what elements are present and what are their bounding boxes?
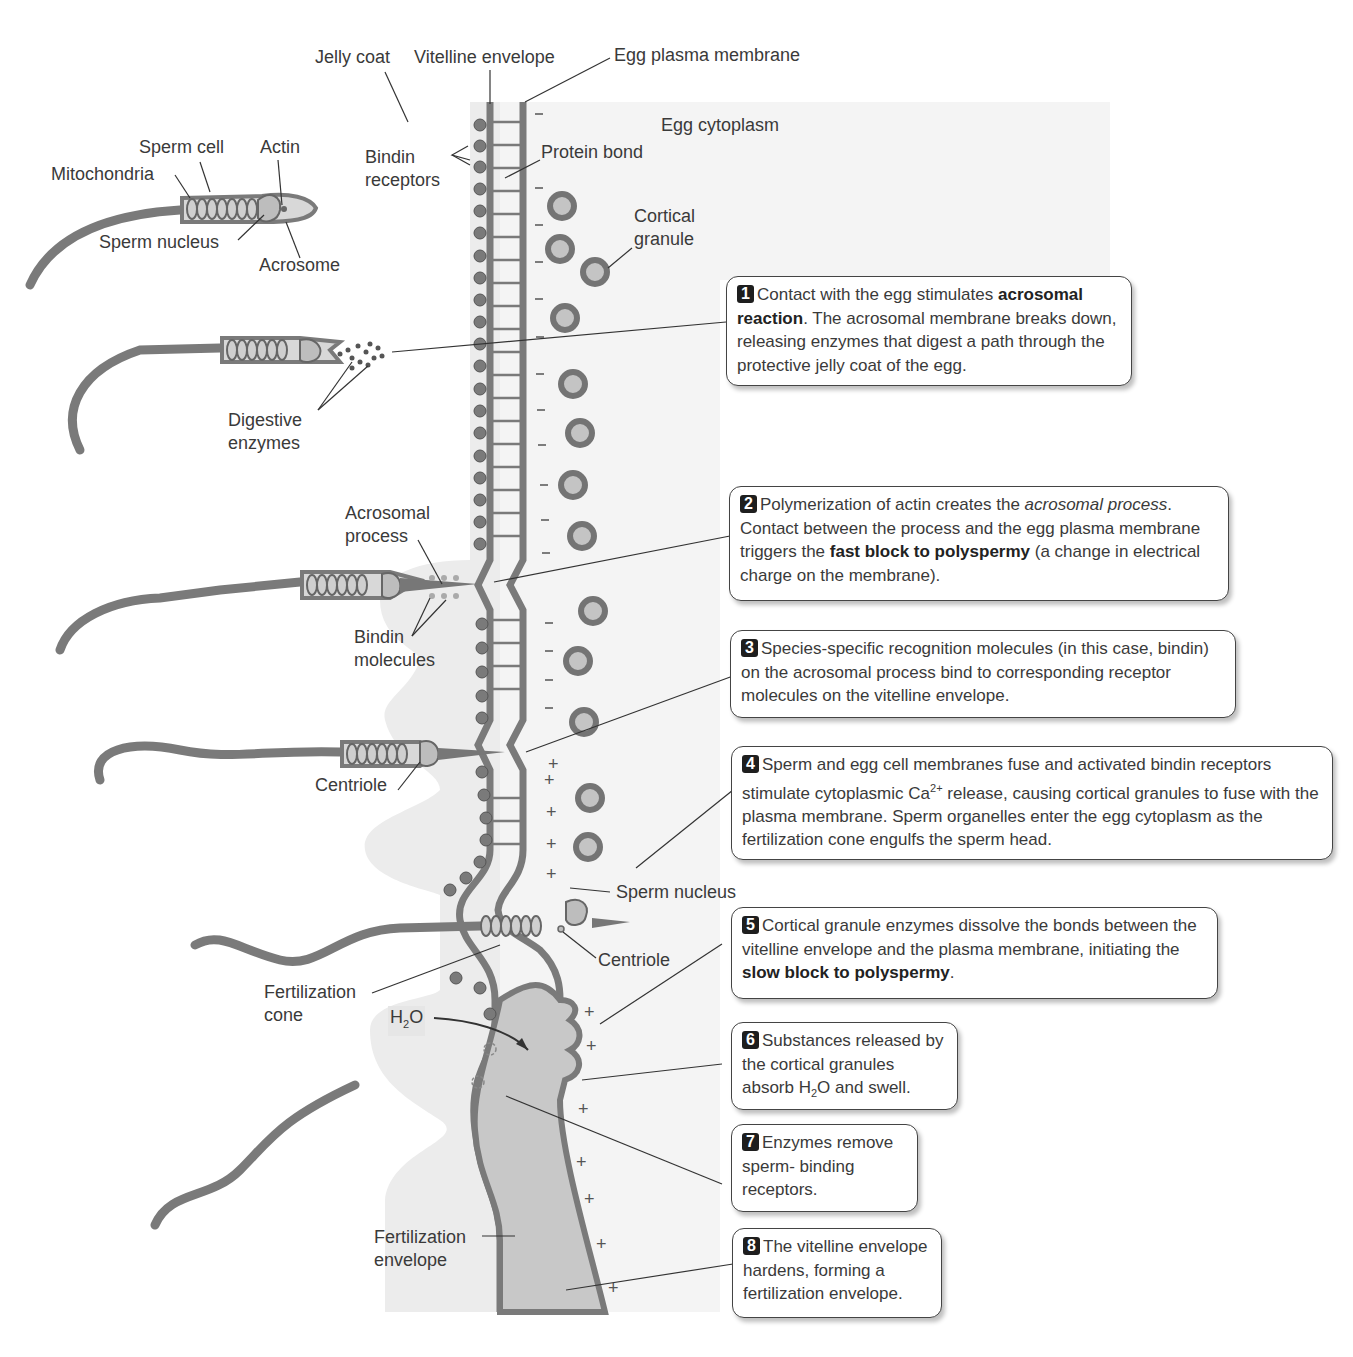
step-badge: 1 xyxy=(737,285,754,303)
step-callout-8: 8The vitelline envelope hardens, forming… xyxy=(732,1228,942,1318)
label-digestive-enzymes: Digestiveenzymes xyxy=(228,409,302,455)
step-callout-6: 6Substances released by the cortical gra… xyxy=(731,1022,958,1110)
label-bindin-molecules: Bindinmolecules xyxy=(354,626,435,672)
step-badge: 3 xyxy=(741,639,758,657)
svg-text:+: + xyxy=(548,754,559,774)
label-bindin-receptors: Bindinreceptors xyxy=(365,146,440,192)
label-jelly-coat: Jelly coat xyxy=(315,46,390,69)
step-callout-1: 1Contact with the egg stimulates acrosom… xyxy=(726,276,1132,386)
label-acrosomal-process: Acrosomalprocess xyxy=(345,502,430,548)
label-sperm-nucleus-bottom: Sperm nucleus xyxy=(616,881,736,904)
step-callout-3: 3Species-specific recognition molecules … xyxy=(730,630,1236,718)
step-badge: 7 xyxy=(742,1133,759,1151)
svg-text:+: + xyxy=(546,834,557,854)
svg-text:+: + xyxy=(586,1036,597,1056)
label-cortical-granule: Corticalgranule xyxy=(634,205,695,251)
label-h2o: H2O xyxy=(388,1006,425,1036)
label-centriole-right: Centriole xyxy=(598,949,670,972)
svg-text:+: + xyxy=(576,1152,587,1172)
step-badge: 6 xyxy=(742,1031,759,1049)
svg-text:+: + xyxy=(546,864,557,884)
svg-text:+: + xyxy=(608,1278,619,1298)
actin xyxy=(281,206,287,212)
label-mitochondria: Mitochondria xyxy=(51,163,154,186)
step-badge: 8 xyxy=(743,1237,760,1255)
svg-text:+: + xyxy=(546,802,557,822)
step-callout-2: 2Polymerization of actin creates the acr… xyxy=(729,486,1229,601)
label-actin: Actin xyxy=(260,136,300,159)
digestive-enzymes xyxy=(338,342,385,371)
sperm-nucleus-inside xyxy=(566,900,587,925)
label-fertilization-cone: Fertilizationcone xyxy=(264,981,356,1027)
step-callout-5: 5Cortical granule enzymes dissolve the b… xyxy=(731,907,1218,999)
label-acrosome: Acrosome xyxy=(259,254,340,277)
label-egg-plasma-membrane: Egg plasma membrane xyxy=(614,44,800,67)
centriole-inside xyxy=(558,926,564,932)
label-egg-cytoplasm: Egg cytoplasm xyxy=(661,114,779,137)
label-vitelline-envelope: Vitelline envelope xyxy=(414,46,555,69)
step-badge: 2 xyxy=(740,495,757,513)
step-callout-4: 4Sperm and egg cell membranes fuse and a… xyxy=(731,746,1333,860)
svg-text:+: + xyxy=(578,1099,589,1119)
svg-text:+: + xyxy=(584,1189,595,1209)
step-badge: 4 xyxy=(742,755,759,773)
label-fertilization-envelope: Fertilizationenvelope xyxy=(374,1226,466,1272)
label-protein-bond: Protein bond xyxy=(541,141,643,164)
sperm-tail-blocked xyxy=(155,1085,355,1225)
step-callout-7: 7Enzymes remove sperm- binding receptors… xyxy=(731,1124,918,1212)
svg-text:+: + xyxy=(584,1002,595,1022)
label-sperm-cell: Sperm cell xyxy=(139,136,224,159)
step-badge: 5 xyxy=(742,916,759,934)
label-sperm-nucleus-top: Sperm nucleus xyxy=(99,231,219,254)
label-centriole-left: Centriole xyxy=(315,774,387,797)
svg-text:+: + xyxy=(596,1234,607,1254)
